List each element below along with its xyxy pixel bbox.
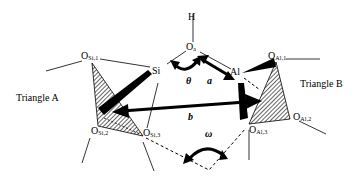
omega-dashed-path (146, 128, 246, 170)
a-label: a (207, 76, 212, 86)
atom-label-h: H (188, 12, 195, 22)
a-distance-arrow-shaft (203, 60, 228, 75)
osi2-sub: Si,2 (98, 130, 108, 136)
al-dashed-bond (244, 78, 260, 90)
atom-label-osi2: OSi,2 (91, 126, 109, 136)
atom-label-al: Al (230, 67, 240, 77)
theta-label: θ (186, 76, 191, 86)
oa-sub: a (193, 46, 196, 52)
triangle-b-shape (249, 62, 290, 124)
atom-label-oal2: OAl,2 (293, 112, 312, 122)
oal2-external-bond (299, 121, 326, 134)
osi3-sub: Si,3 (150, 132, 160, 138)
osi1-sub: Si,1 (88, 55, 98, 61)
osi1-external-bond (46, 61, 82, 71)
osi3-external-bond (143, 142, 154, 171)
atom-label-osi3: OSi,3 (143, 128, 161, 138)
oal2-sub: Al,2 (300, 116, 311, 122)
oal3-sub: Al,3 (256, 129, 267, 135)
oal1-sub: Al,1 (275, 55, 286, 61)
si-osi3-bond (147, 83, 158, 128)
atom-label-oa: Oa (186, 42, 196, 52)
triangle-a-label: Triangle A (16, 93, 59, 103)
omega-angle-arrow (189, 149, 223, 159)
b-distance-arrow-shaft (122, 102, 246, 111)
atom-label-si: Si (152, 66, 160, 76)
osi2-external-bond (82, 138, 90, 163)
triangle-b-label: Triangle B (300, 79, 343, 89)
b-label: b (188, 112, 193, 122)
atom-label-oal1: OAl,1 (268, 51, 287, 61)
omega-label: ω (205, 129, 212, 139)
atom-label-osi1: OSi,1 (81, 51, 99, 61)
atom-label-oal3: OAl,3 (249, 125, 268, 135)
osi1-si-bond (100, 59, 150, 67)
